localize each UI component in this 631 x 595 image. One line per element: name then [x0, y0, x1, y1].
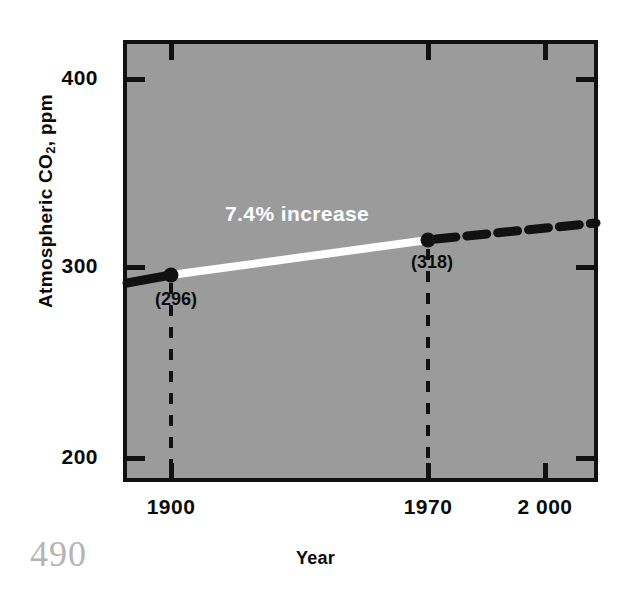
x-tick-label-2000: 2 000: [485, 495, 605, 519]
y-tick-mark-right-300: [576, 265, 598, 270]
increase-annotation: 7.4% increase: [225, 202, 369, 226]
y-tick-mark-right-400: [576, 77, 598, 82]
y-tick-label-200: 200: [18, 445, 98, 469]
y-tick-mark-200: [123, 456, 145, 461]
x-tick-mark-1970: [426, 463, 431, 482]
data-point-label-318: (318): [411, 252, 453, 273]
y-tick-mark-400: [123, 77, 145, 82]
y-tick-label-400: 400: [18, 66, 98, 90]
x-tick-mark-top-1900: [169, 40, 174, 60]
y-axis-label-suffix: , ppm: [35, 94, 56, 146]
x-tick-label-1900: 1900: [111, 495, 231, 519]
x-axis-label: Year: [0, 548, 631, 569]
y-tick-mark-right-200: [576, 456, 598, 461]
y-axis-label-prefix: Atmospheric CO: [35, 154, 56, 308]
y-axis-label: Atmospheric CO2, ppm: [35, 71, 57, 331]
x-tick-mark-1900: [169, 463, 174, 482]
x-tick-mark-top-2000: [543, 40, 548, 60]
x-tick-label-1970: 1970: [368, 495, 488, 519]
y-tick-label-300: 300: [18, 254, 98, 278]
page-number: 490: [30, 533, 87, 575]
data-point-label-296: (296): [155, 289, 197, 310]
y-tick-mark-300: [123, 265, 145, 270]
x-tick-mark-top-1970: [426, 40, 431, 60]
x-tick-mark-2000: [543, 463, 548, 482]
figure-container: Atmospheric CO2, ppm 400 300 200 1900 19…: [0, 0, 631, 595]
y-axis-label-subscript: 2: [43, 146, 58, 154]
plot-area: [123, 40, 598, 482]
